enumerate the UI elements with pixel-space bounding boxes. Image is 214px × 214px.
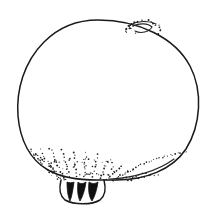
bristle-dot <box>92 176 94 178</box>
bristle-dot <box>85 158 86 159</box>
bristle-dot <box>85 165 86 166</box>
bristle-dot <box>113 166 114 167</box>
outline-dot <box>164 156 165 157</box>
outline-dot <box>37 155 38 156</box>
outline-dot <box>186 151 187 152</box>
bristle-dot <box>120 178 122 180</box>
bristle-dot <box>113 171 115 173</box>
bristle-dot <box>100 177 102 179</box>
bristle-dot <box>129 176 130 177</box>
bristle-dot <box>145 172 147 174</box>
stipple-dot <box>125 31 126 32</box>
stipple-dot <box>157 33 159 35</box>
bristle-dot <box>109 176 111 178</box>
bristle-dot <box>63 179 64 180</box>
outline-dot <box>138 165 139 166</box>
bristle-dot <box>44 167 45 168</box>
bristle-dot <box>104 165 105 166</box>
bristle-dot <box>55 160 56 161</box>
outline-dot <box>172 155 173 156</box>
bristle-dot <box>154 175 155 176</box>
bristle-dot <box>63 156 65 158</box>
bristle-dot <box>54 161 56 163</box>
bristle-dot <box>77 161 78 162</box>
bristle-dot <box>85 152 86 153</box>
bristle-dot <box>66 168 68 170</box>
stipple-dot <box>129 27 131 29</box>
bristle-dot <box>63 153 65 155</box>
bristle-dot <box>48 171 50 173</box>
stipple-dot <box>141 19 143 21</box>
bristle-dot <box>120 165 122 167</box>
bristle-dot <box>57 178 59 180</box>
bristle-dot <box>83 176 85 178</box>
bristle-dot <box>134 178 135 179</box>
stipple-dot <box>155 24 157 26</box>
bristle-dot <box>62 168 63 169</box>
bristle-dot <box>53 156 54 157</box>
bristle-dot <box>103 174 105 176</box>
bristle-dot <box>108 177 110 179</box>
outline-dot <box>42 159 44 161</box>
bristle-dot <box>95 161 97 163</box>
bristle-dot <box>63 160 64 161</box>
bristle-dot <box>34 157 35 158</box>
bristle-dot <box>59 171 61 173</box>
bristle-dot <box>51 149 52 150</box>
bristle-dot <box>116 170 118 172</box>
outline-dot <box>127 170 128 171</box>
stipple-dot <box>158 25 159 26</box>
outline-dot <box>37 158 38 159</box>
bristle-dot <box>107 161 109 163</box>
stipple-dot <box>152 22 154 24</box>
bristle-dot <box>84 166 86 168</box>
bristle-dot <box>58 177 59 178</box>
bristle-dot <box>76 176 78 178</box>
bristle-dot <box>103 168 105 170</box>
bristle-dot <box>111 168 113 170</box>
outline-dot <box>158 157 159 158</box>
bristle-dot <box>79 174 80 175</box>
bristle-dot <box>90 172 91 173</box>
bristle-dot <box>68 171 70 173</box>
bristle-dot <box>96 173 97 174</box>
bristle-dot <box>84 162 85 163</box>
bristle-dot <box>106 161 107 162</box>
bristle-dot <box>44 158 46 160</box>
bristle-dot <box>74 155 75 156</box>
bristle-dot <box>97 157 98 158</box>
bristle-dot <box>62 173 64 175</box>
bristle-dot <box>150 174 152 176</box>
bristle-dot <box>50 165 52 167</box>
outline-dot <box>130 171 131 172</box>
bristle-dot <box>130 179 132 181</box>
bristle-dot <box>107 174 108 175</box>
outline-dot <box>119 174 121 176</box>
bristle-dot <box>125 177 127 179</box>
outline-dot <box>35 154 37 156</box>
line-drawing-illustration <box>0 0 214 214</box>
outline-dot <box>48 165 50 167</box>
bristle-dot <box>158 174 159 175</box>
bristle-dot <box>88 158 90 160</box>
bristle-dot <box>50 162 52 164</box>
outline-dot <box>174 153 176 155</box>
bristle-dot <box>52 173 53 174</box>
outline-dot <box>38 159 39 160</box>
bristle-dot <box>102 162 103 163</box>
outline-dot <box>143 163 145 165</box>
bristle-dot <box>138 174 140 176</box>
bristle-dot <box>48 148 50 150</box>
stipple-dot <box>135 32 136 33</box>
bristle-dot <box>92 173 93 174</box>
bristle-dot <box>74 157 76 159</box>
bristle-dot <box>112 180 114 182</box>
bristle-dot <box>33 155 34 156</box>
bristle-dot <box>132 176 134 178</box>
outline-dot <box>55 171 57 173</box>
bristle-dot <box>110 159 111 160</box>
bristle-dot <box>59 161 60 162</box>
outline-dot <box>146 161 148 163</box>
outline-dot <box>167 156 168 157</box>
outline-dot <box>156 158 157 159</box>
